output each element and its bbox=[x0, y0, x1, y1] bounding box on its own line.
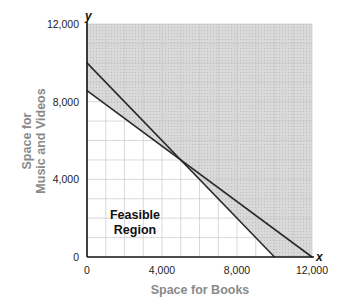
x-tick-label: 8,000 bbox=[224, 264, 250, 276]
y-variable-label: y bbox=[84, 9, 93, 23]
y-tick-label: 0 bbox=[73, 251, 79, 263]
y-axis-title-line-2: Music and Videos bbox=[34, 88, 48, 193]
feasible-region-chart: 04,0008,00012,00004,0008,00012,000 y x S… bbox=[0, 0, 340, 306]
feasible-region-label-line-2: Region bbox=[114, 223, 156, 237]
y-tick-label: 4,000 bbox=[53, 173, 79, 185]
y-tick-label: 8,000 bbox=[53, 96, 79, 108]
x-variable-label: x bbox=[315, 250, 324, 264]
y-tick-label: 12,000 bbox=[47, 18, 79, 30]
y-axis-title-line-1: Space for bbox=[20, 112, 34, 169]
feasible-region-label-line-1: Feasible bbox=[110, 208, 160, 222]
x-axis-title: Space for Books bbox=[151, 283, 250, 297]
x-tick-label: 12,000 bbox=[296, 264, 328, 276]
y-axis-title: Space for Music and Videos bbox=[20, 88, 48, 193]
x-tick-label: 4,000 bbox=[149, 264, 175, 276]
feasible-region-label: Feasible Region bbox=[110, 208, 160, 237]
x-tick-label: 0 bbox=[84, 264, 90, 276]
